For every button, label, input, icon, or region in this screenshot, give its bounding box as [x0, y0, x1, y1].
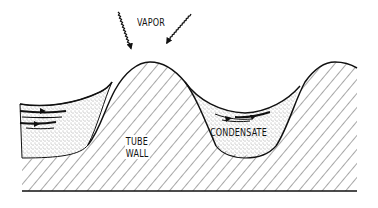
tube-wall-label-line2: WALL: [125, 147, 149, 159]
vapor-arrow-right-icon: [167, 14, 191, 43]
condensation-diagram: [0, 0, 378, 208]
tube-wall-label-line1: TUBE: [125, 135, 149, 147]
vapor-arrow-left-icon: [118, 12, 131, 49]
vapor-label: VAPOR: [137, 16, 165, 28]
condensate-label: CONDENSATE: [210, 126, 267, 138]
